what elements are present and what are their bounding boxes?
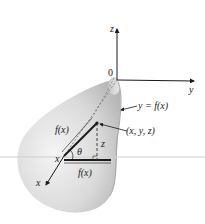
theta-label: θ [77, 147, 82, 157]
horizontal-radius-label: f(x) [78, 168, 92, 178]
curve-label: y = f(x) [138, 101, 168, 111]
y-axis [117, 80, 194, 81]
surface-body [17, 80, 120, 213]
solid-of-revolution-diagram: z y 0 x y = f(x) (x, y, z) f(x) f(x) z θ… [0, 0, 205, 224]
x-axis-label: x [36, 178, 40, 188]
height-label: z [101, 139, 105, 149]
y-axis-label: y [189, 85, 193, 95]
point-xyz [95, 121, 98, 124]
slant-radius-label: f(x) [55, 125, 69, 135]
diagram-canvas [0, 0, 205, 224]
point-label: (x, y, z) [126, 126, 155, 136]
curve-leader [121, 106, 137, 110]
origin-label: 0 [108, 68, 113, 78]
x-point-label: x [55, 154, 59, 164]
z-axis-label: z [110, 24, 114, 34]
